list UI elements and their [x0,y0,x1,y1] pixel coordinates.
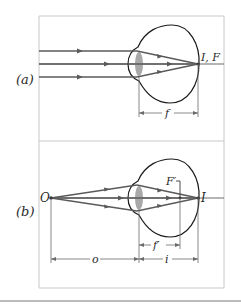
eye-optics-diagram: (a) I, F f [0,0,241,304]
panel-a-label: (a) [16,72,34,87]
object-distance-label: o [92,253,99,266]
panel-a [39,25,224,117]
focal-length-prime-label: f′ [152,239,160,252]
image-point-label: I [200,191,206,205]
panel-b-label: (b) [16,204,34,219]
focal-length-label: f [164,107,171,120]
focal-point-label: F′ [165,175,177,188]
image-distance-label: i [165,253,169,266]
object-point-label: O [40,191,50,205]
image-focal-point-label: I, F [200,51,220,64]
panel-b [49,159,224,263]
